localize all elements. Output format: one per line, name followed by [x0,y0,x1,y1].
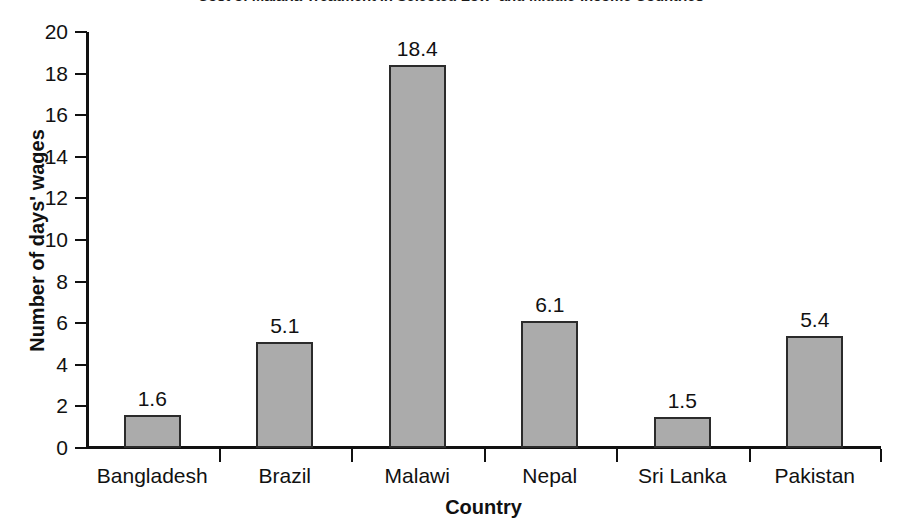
y-tick-mark [75,405,87,407]
bar-value-label: 6.1 [500,294,600,315]
y-tick-mark [75,322,87,324]
y-tick-label: 18 [28,63,68,84]
bar-value-label: 1.5 [632,390,732,411]
y-tick-mark [75,73,87,75]
bar [521,321,578,448]
bar [389,65,446,448]
y-tick-mark [75,281,87,283]
bar [654,417,711,448]
bar-value-label: 18.4 [367,38,467,59]
x-tick-mark [616,449,618,462]
bar [786,336,843,448]
bar [256,342,313,448]
y-tick-mark [75,31,87,33]
x-axis-title: Country [86,496,881,519]
y-tick-mark [75,239,87,241]
chart-screenshot: Cost of Malaria Treatment in Selected Lo… [0,0,901,522]
y-tick-mark [75,156,87,158]
category-label: Pakistan [735,464,895,487]
y-tick-label-container: 0 [0,448,68,449]
y-tick-label: 20 [28,21,68,42]
bar-value-label: 5.4 [765,309,865,330]
x-tick-mark [219,449,221,462]
y-tick-mark [75,364,87,366]
plot-area: 20181614121086420 1.65.118.46.11.55.4 Ba… [0,0,901,522]
y-tick-label: 2 [28,395,68,416]
y-tick-label-container: 20 [0,32,68,33]
x-tick-mark [484,449,486,462]
bar [124,415,181,448]
bar-value-label: 5.1 [235,315,335,336]
y-tick-mark [75,114,87,116]
y-tick-mark [75,197,87,199]
y-tick-label: 0 [28,437,68,458]
x-tick-mark [351,449,353,462]
y-axis-title: Number of days' wages [26,96,49,386]
y-tick-mark [75,447,87,449]
x-tick-mark [749,449,751,462]
y-tick-label-container: 2 [0,406,68,407]
bar-value-label: 1.6 [102,388,202,409]
y-tick-label-container: 18 [0,74,68,75]
x-tick-mark-end [880,449,882,462]
